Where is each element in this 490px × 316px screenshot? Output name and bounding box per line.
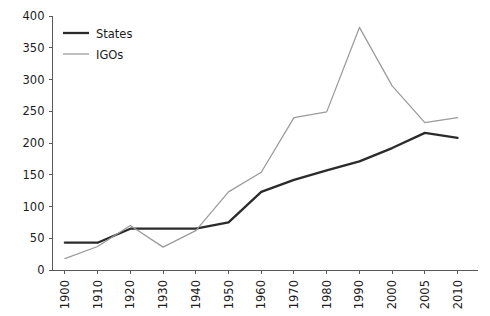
x-axis-tick-label: 1920 [123,280,137,309]
y-axis: 050100150200250300350400 [23,9,53,277]
chart-legend: StatesIGOs [63,27,132,62]
legend-label-igos: IGOs [96,48,123,62]
legend-label-states: States [96,27,132,41]
series-line-states [65,133,458,243]
line-chart: 050100150200250300350400 190019101920193… [0,0,490,316]
y-axis-tick-label: 100 [23,200,45,214]
x-axis-tick-label: 1980 [320,280,334,309]
x-axis-tick-label: 1990 [352,280,366,309]
y-axis-tick-label: 350 [23,41,45,55]
y-axis-tick-label: 0 [37,263,44,277]
x-axis-tick-label: 1910 [91,280,105,309]
x-axis-tick-label: 2000 [385,280,399,309]
y-axis-tick-label: 250 [23,104,45,118]
chart-canvas: 050100150200250300350400 190019101920193… [0,0,490,316]
x-axis-tick-label: 1960 [254,280,268,309]
x-axis-tick-label: 2010 [451,280,465,309]
x-axis: 1900191019201930194019501960197019801990… [58,270,465,309]
data-series-group [65,27,458,258]
x-axis-tick-label: 1940 [189,280,203,309]
series-line-igos [65,27,458,258]
x-axis-tick-label: 1900 [58,280,72,309]
y-axis-tick-label: 400 [23,9,45,23]
x-axis-tick-label: 2005 [418,280,432,309]
y-axis-tick-label: 150 [23,168,45,182]
x-axis-tick-label: 1950 [222,280,236,309]
y-axis-tick-label: 200 [23,136,45,150]
x-axis-tick-label: 1930 [156,280,170,309]
x-axis-tick-label: 1970 [287,280,301,309]
y-axis-tick-label: 50 [30,231,45,245]
y-axis-tick-label: 300 [23,73,45,87]
